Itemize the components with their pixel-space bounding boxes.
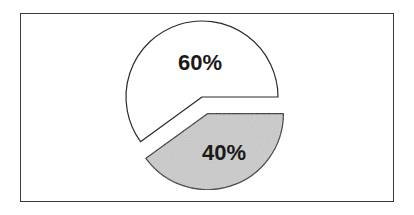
slice-label: 60%	[178, 50, 222, 75]
slice-label: 40%	[202, 140, 246, 165]
pie-chart: 60%40%	[0, 0, 414, 215]
